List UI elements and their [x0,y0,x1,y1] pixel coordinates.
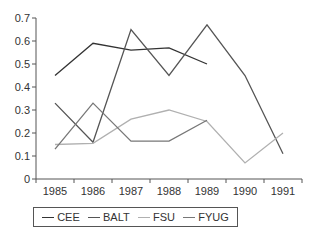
legend-item-cee: CEE [42,211,80,223]
y-tick-label: 0.5 [15,58,30,70]
x-tick-label: 1989 [195,185,219,197]
x-tick-label: 1986 [81,185,105,197]
legend-label-fyug: FYUG [198,211,229,223]
x-tick-label: 1985 [43,185,67,197]
legend-label-balt: BALT [103,211,130,223]
legend-swatch-balt [88,217,100,218]
y-axis: 00.10.20.30.40.50.60.7 [15,12,36,185]
y-tick-label: 0.7 [15,12,30,24]
x-tick-label: 1987 [119,185,143,197]
legend-swatch-fsu [138,217,150,218]
legend-label-cee: CEE [57,211,80,223]
legend-item-balt: BALT [88,211,130,223]
y-tick-label: 0.6 [15,35,30,47]
y-tick-label: 0.3 [15,104,30,116]
legend-swatch-cee [42,217,54,218]
legend-item-fyug: FYUG [183,211,229,223]
y-tick-label: 0.4 [15,81,30,93]
legend-item-fsu: FSU [138,211,175,223]
legend: CEE BALT FSU FYUG [33,207,238,227]
x-tick-label: 1991 [271,185,295,197]
series-line-cee [55,43,207,75]
legend-swatch-fyug [183,217,195,218]
series-line-fsu [55,110,283,163]
x-tick-label: 1990 [233,185,257,197]
y-tick-label: 0 [24,173,30,185]
y-tick-label: 0.2 [15,127,30,139]
series-line-balt [55,25,283,154]
y-tick-label: 0.1 [15,150,30,162]
legend-label-fsu: FSU [153,211,175,223]
x-tick-label: 1988 [157,185,181,197]
line-chart: 00.10.20.30.40.50.60.7 19851986198719881… [0,0,317,239]
series-lines [55,25,283,163]
x-axis: 1985198619871988198919901991 [36,179,302,197]
